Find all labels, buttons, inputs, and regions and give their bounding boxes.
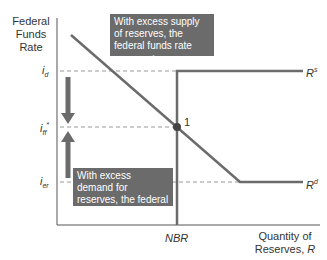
equilibrium-point — [173, 123, 181, 131]
rs-label: Rs — [306, 63, 317, 80]
excess-supply-sup: * — [152, 54, 155, 61]
excess-supply-sub: ff — [148, 61, 152, 68]
tick-iff-sup: * — [46, 121, 49, 128]
tick-iff: iff* — [40, 118, 49, 139]
rd-label: Rd — [306, 175, 318, 192]
y-axis-label-line2: Funds Rate — [6, 28, 56, 54]
rd-label-sup: d — [314, 178, 318, 185]
tick-ier-sub: er — [42, 182, 48, 189]
y-axis-label: Federal Funds Rate — [6, 15, 56, 54]
nbr-label: NBR — [165, 232, 188, 245]
tick-id: id — [42, 64, 48, 81]
up-arrow-shaft — [66, 140, 71, 178]
demand-curve — [71, 35, 303, 182]
x-axis-label-line2: Reserves, R — [250, 243, 320, 256]
excess-supply-annotation: With excess supply of reserves, the fede… — [110, 14, 214, 56]
rs-label-text: R — [306, 67, 314, 79]
x-axis-label-line2-text: Reserves, — [255, 243, 308, 255]
point-label: 1 — [184, 116, 190, 129]
tick-id-sub: d — [44, 71, 48, 78]
tick-iff-sub: ff — [42, 129, 46, 136]
excess-demand-sub: ff — [162, 212, 166, 219]
excess-demand-annotation: With excess demand for reserves, the fed… — [73, 168, 173, 206]
x-axis-var: R — [307, 243, 315, 255]
up-arrow-icon — [61, 131, 75, 142]
supply-curve — [177, 71, 303, 225]
excess-demand-text: With excess demand for reserves, the fed… — [77, 170, 168, 217]
down-arrow-icon — [61, 113, 75, 124]
x-axis-label: Quantity of Reserves, R — [250, 230, 320, 256]
rd-label-text: R — [306, 179, 314, 191]
tick-ier: ier — [40, 175, 49, 192]
x-axis-label-line1: Quantity of — [250, 230, 320, 243]
rs-label-sup: s — [314, 66, 318, 73]
y-axis-label-line1: Federal — [6, 15, 56, 28]
down-arrow-shaft — [66, 77, 71, 115]
